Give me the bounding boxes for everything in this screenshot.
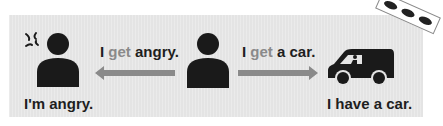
arrow-left-icon	[95, 66, 175, 80]
label-post: angry.	[131, 43, 179, 60]
car-with-driver-icon	[326, 46, 396, 88]
label-verb: get	[250, 43, 273, 60]
arrow-right-icon	[238, 66, 318, 80]
arrow-right-label: I get a car.	[242, 43, 315, 60]
angry-person-icon	[22, 30, 80, 88]
label-post: a car.	[273, 43, 316, 60]
arrow-left-label: I get angry.	[100, 43, 179, 60]
person-icon	[186, 32, 230, 88]
left-caption: I'm angry.	[24, 95, 93, 112]
right-caption: I have a car.	[327, 95, 412, 112]
label-verb: get	[108, 43, 131, 60]
